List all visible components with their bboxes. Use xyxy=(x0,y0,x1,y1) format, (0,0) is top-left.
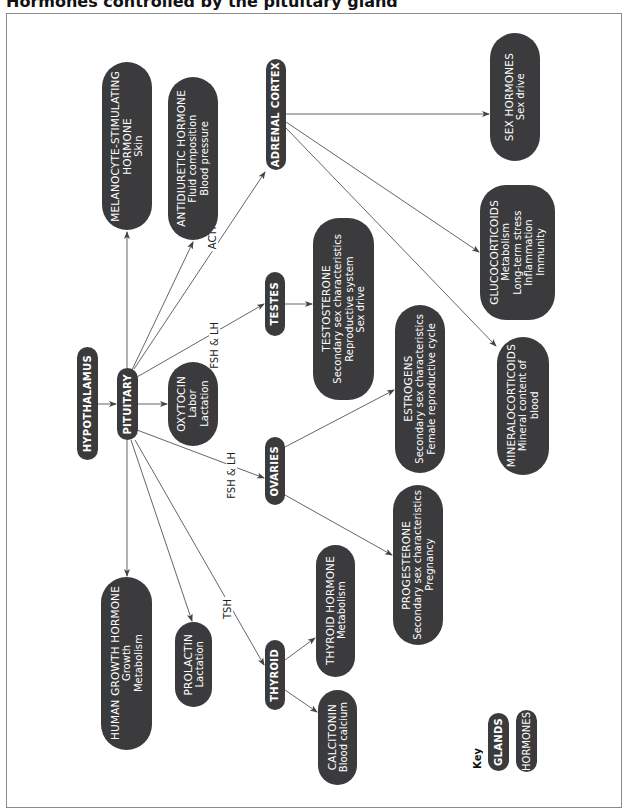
hormone-name: OXYTOCIN xyxy=(175,376,187,432)
hormone-estrogens: ESTROGENS Secondary sex characteristics … xyxy=(395,305,445,473)
hormone-effect: Mineral content of xyxy=(518,344,530,467)
hormone-prolactin: PROLACTIN Lactation xyxy=(175,622,212,707)
hormone-name: CALCITONIN xyxy=(326,702,338,772)
hormone-effect: Immunity xyxy=(535,200,547,305)
key-glands-label: GLANDS xyxy=(493,718,505,766)
hormone-effect: Female reproductive cycle xyxy=(426,314,438,464)
gland-label: THYROID xyxy=(269,649,281,702)
hormone-effect: blood xyxy=(529,344,541,467)
hormone-effect: Reproductive system xyxy=(344,234,356,384)
gland-testes: TESTES xyxy=(265,272,285,336)
key-glands: GLANDS xyxy=(488,713,509,771)
key-hormones: HORMONES xyxy=(516,710,537,772)
hormone-effect: Secondary sex characteristics xyxy=(413,490,425,640)
hormone-progesterone: PROGESTERONE Secondary sex characteristi… xyxy=(393,485,443,645)
edge-label-fsh-lh-testes: FSH & LH xyxy=(209,320,220,371)
edge-label-tsh: TSH xyxy=(222,597,233,621)
hormone-hgh: HUMAN GROWTH HORMONE Growth Metabolism xyxy=(101,577,152,750)
hormone-oxytocin: OXYTOCIN Labor Lactation xyxy=(168,362,218,446)
hormone-effect: Blood pressure xyxy=(199,90,211,227)
gland-ovaries: OVARIES xyxy=(265,437,285,505)
hormone-effect: Secondary sex characteristics xyxy=(415,314,427,464)
hormone-effect: Pregnancy xyxy=(424,490,436,640)
hormone-name: ESTROGENS xyxy=(402,314,414,464)
gland-thyroid: THYROID xyxy=(265,640,285,710)
hormone-adh: ANTIDIURETIC HORMONE Fluid composition B… xyxy=(168,77,218,240)
hormone-effect: Sex drive xyxy=(355,234,367,384)
hormone-effect: Metabolism xyxy=(501,200,513,305)
gland-pituitary: PITUITARY xyxy=(117,368,138,440)
gland-adrenal-cortex: ADRENAL CORTEX xyxy=(266,59,286,170)
hormone-name: TESTOSTERONE xyxy=(320,234,332,384)
key-label: Key xyxy=(472,748,483,769)
hormone-effect: Sex drive xyxy=(515,53,527,141)
hormone-name: SEX HORMONES xyxy=(503,53,515,141)
hormone-effect: Fluid composition xyxy=(188,90,200,227)
hormone-msh: MELANOCYTE-STIMULATING HORMONE Skin xyxy=(102,62,152,230)
key-hormones-label: HORMONES xyxy=(521,712,533,771)
hormone-thyroid-hormone: THYROID HORMONE Metabolism xyxy=(316,545,355,677)
gland-label: ADRENAL CORTEX xyxy=(270,62,282,167)
hormone-mineralocorticoids: MINERALOCORTICOIDS Mineral content of bl… xyxy=(497,337,549,475)
hormone-name-line2: HORMONE xyxy=(121,71,133,222)
hormone-testosterone: TESTOSTERONE Secondary sex characteristi… xyxy=(313,218,374,400)
hormone-effect: Lactation xyxy=(194,634,206,695)
hormone-name: THYROID HORMONE xyxy=(324,556,336,665)
hormone-effect: Blood calcium xyxy=(338,702,350,772)
hormone-effect: Growth xyxy=(121,586,133,740)
hormone-name: HUMAN GROWTH HORMONE xyxy=(109,586,121,740)
hormone-effect: Labor xyxy=(188,376,200,432)
gland-label: TESTES xyxy=(269,282,281,326)
hormone-name: ANTIDIURETIC HORMONE xyxy=(175,90,187,227)
hormone-name: MINERALOCORTICOIDS xyxy=(505,344,517,467)
gland-label: HYPOTHALAMUS xyxy=(82,355,94,452)
hormone-name: MELANOCYTE-STIMULATING xyxy=(109,71,121,222)
hormone-glucocorticoids: GLUCOCORTICOIDS Metabolism Long-term str… xyxy=(480,185,555,320)
hormone-calcitonin: CALCITONIN Blood calcium xyxy=(318,690,357,785)
gland-hypothalamus: HYPOTHALAMUS xyxy=(77,347,98,460)
hormone-effect: Metabolism xyxy=(336,556,348,665)
hormone-sex-hormones: SEX HORMONES Sex drive xyxy=(490,33,540,161)
hormone-effect: Metabolism xyxy=(133,586,145,740)
hormone-effect: Secondary sex characteristics xyxy=(332,234,344,384)
hormone-effect: Lactation xyxy=(199,376,211,432)
gland-label: PITUITARY xyxy=(122,374,134,435)
gland-label: OVARIES xyxy=(269,446,281,497)
hormone-effect: Inflammation xyxy=(524,200,536,305)
hormone-effect: Skin xyxy=(133,71,145,222)
hormone-name: PROGESTERONE xyxy=(400,490,412,640)
edge-label-fsh-lh-ovaries: FSH & LH xyxy=(226,450,237,501)
hormone-name: PROLACTIN xyxy=(182,634,194,695)
hormone-name: GLUCOCORTICOIDS xyxy=(488,200,500,305)
hormone-effect: Long-term stress xyxy=(512,200,524,305)
